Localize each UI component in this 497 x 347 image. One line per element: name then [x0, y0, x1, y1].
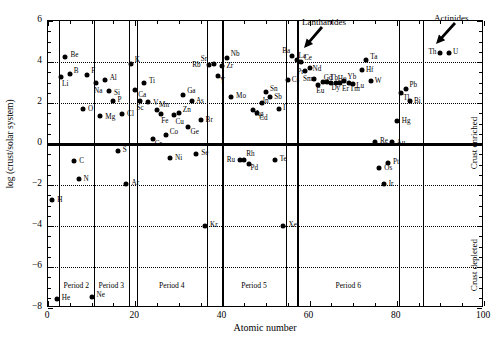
data-point	[394, 119, 399, 124]
point-label: N	[84, 176, 89, 183]
y-tick	[477, 62, 482, 63]
y-tick	[48, 52, 51, 53]
x-tick	[244, 303, 245, 306]
point-label: Mn	[159, 102, 169, 109]
data-point	[146, 99, 151, 104]
point-label: Ti	[149, 78, 155, 85]
side-label-crust-enriched: Crust enriched	[467, 80, 481, 205]
point-label: Ta	[370, 54, 377, 61]
y-tick	[48, 83, 51, 84]
data-point	[403, 87, 408, 92]
data-point	[268, 94, 273, 99]
y-tick	[48, 236, 51, 237]
data-point	[141, 80, 146, 85]
y-tick	[48, 93, 51, 94]
y-tick-label: 6	[16, 14, 42, 24]
x-tick-label: 0	[27, 310, 67, 320]
data-point	[220, 63, 225, 68]
point-label: Hg	[402, 118, 411, 125]
point-label: Kr	[210, 222, 218, 229]
point-label: Mg	[105, 114, 115, 121]
x-tick	[92, 21, 93, 24]
x-tick	[288, 303, 289, 306]
x-tick	[266, 21, 267, 24]
point-label: Hf	[366, 67, 374, 74]
y-tick	[479, 42, 482, 43]
point-label: Cs	[292, 77, 300, 84]
data-point	[137, 98, 142, 103]
x-tick	[397, 301, 398, 306]
data-point	[120, 111, 125, 116]
data-point	[133, 88, 138, 93]
point-label: F	[91, 68, 95, 75]
y-axis-title: log (crust/solar system)	[3, 0, 17, 287]
x-tick	[157, 21, 158, 24]
data-point	[272, 158, 277, 163]
period-band-label: Period 2	[59, 281, 94, 290]
point-label: Li	[62, 81, 68, 88]
x-tick	[419, 21, 420, 24]
chart-root: log (crust/solar system) Atomic number P…	[0, 0, 497, 347]
point-label: Sn	[270, 86, 278, 93]
data-point	[159, 112, 164, 117]
y-tick	[48, 206, 51, 207]
point-label: Dy	[331, 85, 340, 92]
point-label: Sm	[303, 76, 313, 83]
data-point	[377, 166, 382, 171]
data-point	[181, 93, 186, 98]
gridline-y	[48, 185, 482, 186]
y-tick-label: 4	[16, 55, 42, 65]
x-tick	[288, 21, 289, 24]
point-label: Lu	[356, 83, 364, 90]
point-label: Rh	[246, 151, 254, 158]
data-point	[285, 78, 290, 83]
y-tick	[48, 267, 53, 268]
point-label: W	[375, 78, 382, 85]
data-point	[59, 75, 64, 80]
y-tick	[48, 42, 51, 43]
x-tick-label: 60	[289, 310, 329, 320]
y-tick	[48, 134, 51, 135]
y-tick	[48, 257, 51, 258]
data-point	[359, 67, 364, 72]
point-label: Cu	[175, 119, 183, 126]
point-label: K	[135, 57, 140, 64]
data-point	[85, 72, 90, 77]
y-tick	[48, 247, 51, 248]
x-tick	[201, 303, 202, 306]
side-label-text: Crust enriched	[469, 116, 479, 169]
data-point	[211, 62, 216, 67]
data-point	[438, 51, 443, 56]
data-point	[128, 62, 133, 67]
y-tick	[48, 185, 53, 186]
y-tick-label: 0	[16, 137, 42, 147]
x-tick-label: 20	[114, 310, 154, 320]
point-label: As	[196, 98, 204, 105]
x-tick	[70, 303, 71, 306]
point-label: Ar	[131, 180, 139, 187]
point-label: Eu	[316, 88, 324, 95]
x-tick	[419, 303, 420, 306]
x-tick	[397, 21, 398, 26]
x-tick	[222, 21, 223, 26]
period-divider	[94, 21, 95, 306]
point-label: Zr	[226, 63, 233, 70]
x-tick	[484, 21, 485, 26]
y-tick	[48, 31, 51, 32]
y-tick	[48, 124, 51, 125]
x-tick	[440, 303, 441, 306]
point-label: S	[123, 147, 127, 154]
x-tick	[179, 21, 180, 24]
data-point	[72, 159, 77, 164]
point-label: P	[117, 97, 121, 104]
point-label: Bi	[414, 98, 421, 105]
y-tick	[48, 298, 51, 299]
x-tick	[484, 301, 485, 306]
x-tick	[375, 21, 376, 24]
x-tick	[353, 303, 354, 306]
point-label: Sb	[274, 94, 282, 101]
point-label: Cd	[259, 115, 267, 122]
point-label: Cl	[127, 111, 134, 118]
data-point	[102, 78, 107, 83]
plot-inner: Period 2Period 3Period 4Period 5Period 6…	[48, 21, 482, 306]
